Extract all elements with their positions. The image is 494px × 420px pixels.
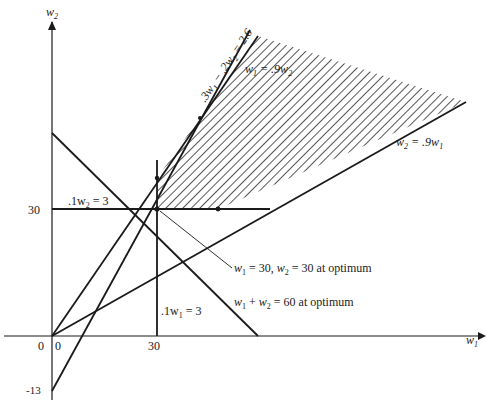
y-axis-label: w2 <box>46 5 58 21</box>
label-w2-constraint: .1w2 = 3 <box>68 194 108 210</box>
feasible-region <box>157 36 466 209</box>
optimum-annotation: w1 = 30, w2 = 30 at optimum <box>234 261 372 277</box>
x-axis <box>4 332 486 340</box>
label-w1-constraint: .1w1 = 3 <box>161 304 201 320</box>
optimum-point <box>154 206 159 211</box>
y-tick-neg13: -13 <box>26 384 41 396</box>
vertex-point <box>198 116 202 120</box>
origin-label-right: 0 <box>55 339 61 353</box>
label-w2-eq-09w1: w2 = .9w1 <box>396 135 443 151</box>
vertex-point <box>216 207 221 212</box>
lp-feasible-region-diagram: w2 w1 0 0 30 30 -13 .1w2 = 3 .1w1 = 3 w1… <box>0 0 494 420</box>
y-axis-arrow-icon <box>48 21 56 30</box>
y-tick-30: 30 <box>28 203 40 217</box>
label-w1-eq-09w2: w1 = .9w2 <box>245 62 292 78</box>
vertex-point <box>155 176 159 180</box>
objective-annotation: w1 + w2 = 60 at optimum <box>234 295 354 311</box>
x-axis-arrow-icon <box>478 332 486 340</box>
origin-label-left: 0 <box>38 339 44 353</box>
x-tick-30: 30 <box>148 339 160 353</box>
